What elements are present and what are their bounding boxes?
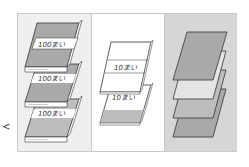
figure-frame: 100まい 100まい 100まい (17, 13, 237, 152)
single-sheets-illustration (165, 14, 237, 153)
panel-single-sheets (165, 14, 237, 151)
bundles-10-illustration: 10まい 10まい (92, 14, 165, 153)
svg-text:100まい: 100まい (38, 110, 65, 118)
svg-text:100まい: 100まい (38, 75, 65, 83)
bundles-100-illustration: 100まい 100まい 100まい (18, 14, 92, 153)
svg-text:10まい: 10まい (112, 94, 135, 102)
panel-hundred-sheet-bundles: 100まい 100まい 100まい (18, 14, 92, 151)
side-mark: < (2, 121, 10, 132)
svg-text:100まい: 100まい (38, 41, 65, 49)
panel-ten-sheet-bundles: 10まい 10まい (92, 14, 165, 151)
svg-text:10まい: 10まい (114, 64, 137, 72)
